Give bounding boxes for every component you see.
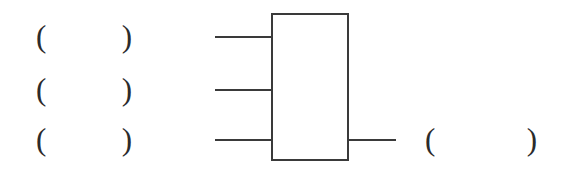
- input-blank-1-field[interactable]: [49, 21, 119, 53]
- input-blank-1[interactable]: ( ): [36, 17, 132, 57]
- input-blank-2-field[interactable]: [49, 74, 119, 106]
- input-wire-3: [215, 139, 273, 141]
- open-paren-icon: (: [36, 120, 46, 160]
- close-paren-icon: ): [122, 17, 132, 57]
- close-paren-icon: ): [122, 70, 132, 110]
- figure-canvas: ( ) ( ) ( ) ( ): [0, 0, 577, 171]
- input-blank-3[interactable]: ( ): [36, 120, 132, 160]
- open-paren-icon: (: [36, 70, 46, 110]
- output-blank-field[interactable]: [438, 124, 524, 156]
- open-paren-icon: (: [36, 17, 46, 57]
- input-blank-2[interactable]: ( ): [36, 70, 132, 110]
- system-block[interactable]: [271, 13, 349, 161]
- open-paren-icon: (: [425, 120, 435, 160]
- input-blank-3-field[interactable]: [49, 124, 119, 156]
- close-paren-icon: ): [122, 120, 132, 160]
- close-paren-icon: ): [527, 120, 537, 160]
- input-wire-2: [215, 89, 273, 91]
- output-wire-1: [347, 139, 396, 141]
- output-blank[interactable]: ( ): [425, 120, 537, 160]
- input-wire-1: [215, 36, 273, 38]
